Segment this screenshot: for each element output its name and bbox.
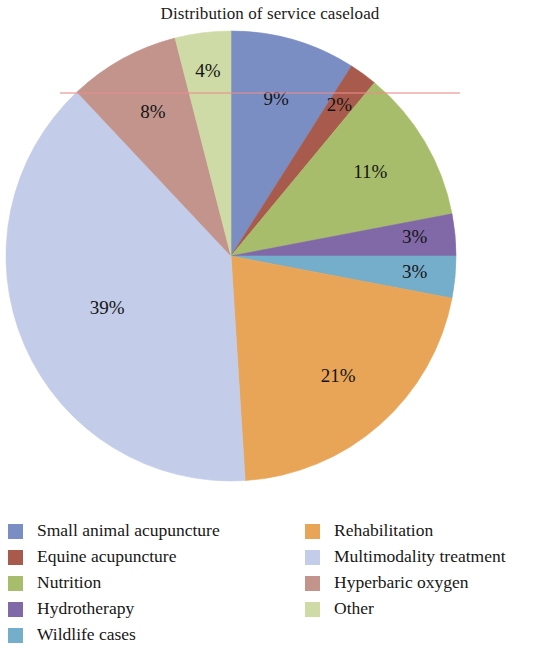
legend-item: Hyperbaric oxygen — [305, 570, 540, 596]
legend-item-label: Rehabilitation — [334, 522, 433, 540]
legend-item: Wildlife cases — [8, 622, 298, 648]
legend-item-label: Small animal acupuncture — [37, 522, 220, 540]
legend-item-label: Hyperbaric oxygen — [334, 574, 469, 592]
legend-color-swatch — [8, 550, 23, 565]
pie-chart-svg: 9%2%11%3%3%21%39%8%4% — [0, 0, 540, 500]
legend-color-swatch — [8, 628, 23, 643]
legend-column-left: Small animal acupunctureEquine acupunctu… — [8, 518, 298, 648]
pie-slice-label: 3% — [402, 261, 428, 282]
legend-column-right: RehabilitationMultimodality treatmentHyp… — [305, 518, 540, 622]
legend-color-swatch — [8, 524, 23, 539]
pie-slice-label: 9% — [264, 88, 290, 109]
legend-item: Other — [305, 596, 540, 622]
legend-item-label: Other — [334, 600, 374, 618]
pie-slice-label: 8% — [140, 101, 166, 122]
legend-color-swatch — [8, 576, 23, 591]
pie-slice-label: 4% — [195, 60, 221, 81]
legend-item-label: Multimodality treatment — [334, 548, 506, 566]
pie-slice-label: 11% — [353, 161, 387, 182]
legend-color-swatch — [305, 576, 320, 591]
legend-item-label: Nutrition — [37, 574, 101, 592]
pie-slice-label: 3% — [402, 226, 428, 247]
legend-item-label: Equine acupuncture — [37, 548, 176, 566]
legend-item: Nutrition — [8, 570, 298, 596]
pie-slice-label: 39% — [90, 297, 125, 318]
legend-color-swatch — [305, 524, 320, 539]
pie-chart: 9%2%11%3%3%21%39%8%4% — [0, 0, 540, 500]
pie-slice-group — [6, 31, 456, 481]
legend-item-label: Hydrotherapy — [37, 600, 134, 618]
legend-item: Rehabilitation — [305, 518, 540, 544]
legend-item: Hydrotherapy — [8, 596, 298, 622]
legend-item: Multimodality treatment — [305, 544, 540, 570]
legend-color-swatch — [8, 602, 23, 617]
legend-color-swatch — [305, 602, 320, 617]
legend-item: Small animal acupuncture — [8, 518, 298, 544]
chart-legend: Small animal acupunctureEquine acupunctu… — [0, 518, 540, 653]
legend-item-label: Wildlife cases — [37, 626, 136, 644]
legend-color-swatch — [305, 550, 320, 565]
pie-slice-label: 21% — [321, 365, 356, 386]
pie-slice-label: 2% — [327, 94, 353, 115]
legend-item: Equine acupuncture — [8, 544, 298, 570]
